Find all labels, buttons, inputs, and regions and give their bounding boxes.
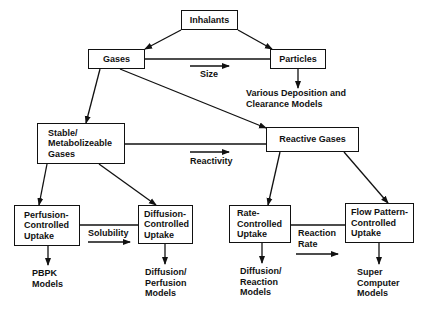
node-gases: Gases: [88, 49, 145, 69]
node-stable-gases-label: Stable/ Metabolizeable Gases: [48, 128, 112, 160]
label-solubility: Solubility: [88, 228, 129, 239]
node-diffusion-controlled-label: Diffusion- Controlled Uptake: [144, 209, 189, 241]
label-size: Size: [200, 69, 218, 80]
node-reactive-gases: Reactive Gases: [266, 127, 359, 152]
node-reactive-gases-label: Reactive Gases: [279, 134, 346, 145]
output-deposition-models: Various Deposition and Clearance Models: [246, 88, 346, 109]
output-super-computer-models: Super Computer Models: [357, 267, 400, 299]
node-rate-controlled: Rate- Controlled Uptake: [229, 205, 291, 243]
node-particles: Particles: [270, 49, 326, 69]
node-rate-controlled-label: Rate- Controlled Uptake: [237, 208, 282, 240]
node-particles-label: Particles: [279, 54, 317, 65]
output-diffusion-reaction-models: Diffusion/ Reaction Models: [240, 266, 282, 298]
label-reaction-rate: Reaction Rate: [298, 228, 336, 249]
node-stable-gases: Stable/ Metabolizeable Gases: [37, 123, 125, 164]
node-perfusion-controlled-label: Perfusion- Controlled Uptake: [24, 210, 69, 242]
node-diffusion-controlled: Diffusion- Controlled Uptake: [138, 205, 193, 244]
output-pbpk-models: PBPK Models: [32, 268, 63, 289]
output-diffusion-perfusion-models: Diffusion/ Perfusion Models: [145, 267, 187, 299]
label-reactivity: Reactivity: [190, 156, 233, 167]
node-perfusion-controlled: Perfusion- Controlled Uptake: [14, 205, 80, 246]
node-flow-pattern-controlled-label: Flow Pattern- Controlled Uptake: [351, 207, 408, 239]
node-flow-pattern-controlled: Flow Pattern- Controlled Uptake: [345, 203, 414, 243]
node-inhalants-label: Inhalants: [190, 15, 230, 26]
node-gases-label: Gases: [103, 54, 130, 65]
node-inhalants: Inhalants: [181, 10, 238, 30]
